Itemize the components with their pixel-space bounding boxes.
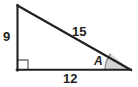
angle-label-a: A	[94, 55, 103, 67]
right-angle-marker-icon	[18, 60, 28, 70]
side-label-vertical-leg: 9	[3, 30, 10, 43]
side-label-hypotenuse: 15	[72, 25, 86, 38]
side-label-horizontal-leg: 12	[63, 72, 77, 85]
right-triangle-figure: 9 15 12 A	[0, 0, 138, 87]
